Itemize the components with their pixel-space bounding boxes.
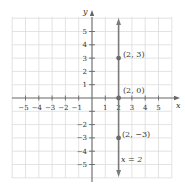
y-tick-label: 2	[83, 68, 87, 76]
y-tick-label: −2	[77, 121, 87, 129]
point-label: (2, 3)	[123, 50, 145, 59]
point-2-neg3	[116, 136, 121, 141]
coordinate-plane: x y −5 −4 −3 −2 −1 1 2 3 4 5 5 4 3 2 1 −…	[0, 0, 185, 184]
line-arrow-down-icon	[116, 170, 121, 177]
y-tick-label: 1	[83, 81, 87, 89]
y-tick-label: 5	[83, 28, 87, 36]
point-label: (2, 0)	[123, 86, 145, 95]
y-tick-label: 4	[83, 41, 88, 49]
y-tick-label: 3	[83, 55, 87, 63]
point-2-0	[116, 96, 121, 101]
point-label: (2, −3)	[122, 130, 150, 139]
x-tick-label: 5	[156, 104, 160, 112]
x-tick-label: −2	[58, 104, 68, 112]
point-2-3	[116, 56, 121, 61]
line-equation-label: x = 2	[121, 155, 142, 164]
line-arrow-up-icon	[116, 18, 121, 25]
x-tick-label: 3	[130, 104, 134, 112]
x-tick-label: −4	[32, 104, 43, 112]
x-axis-label: x	[176, 101, 181, 110]
x-tick-labels: −5 −4 −3 −2 −1 1 2 3 4 5	[18, 104, 160, 112]
y-axis-label: y	[82, 7, 88, 16]
y-axis-arrow-icon	[90, 10, 94, 16]
y-tick-label: −4	[77, 148, 88, 156]
x-tick-label: 4	[143, 104, 148, 112]
x-tick-label: −3	[45, 104, 55, 112]
y-tick-label: −5	[77, 161, 87, 169]
x-axis-arrow-icon	[174, 96, 180, 100]
x-tick-label: −5	[18, 104, 28, 112]
x-tick-label: 1	[103, 104, 107, 112]
axes	[12, 10, 180, 182]
x-tick-label: −1	[72, 104, 82, 112]
y-tick-label: −3	[77, 134, 87, 142]
